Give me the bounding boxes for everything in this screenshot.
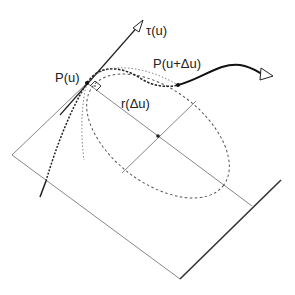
curve-segment-dashed bbox=[87, 69, 178, 86]
ellipse-center-point bbox=[156, 134, 160, 138]
curve-lower-solid bbox=[40, 181, 46, 197]
curve-alt-dotted bbox=[82, 83, 87, 160]
radius-label: r(Δu) bbox=[121, 96, 150, 111]
point-p-label: P(u) bbox=[55, 70, 80, 85]
geometry-diagram: τ(u) P(u) P(u+Δu) r(Δu) bbox=[0, 0, 295, 295]
normal-plane bbox=[12, 83, 281, 279]
tangent-label: τ(u) bbox=[146, 23, 167, 38]
curve-arrowhead bbox=[260, 68, 273, 80]
point-p bbox=[85, 81, 89, 85]
point-p-next-label: P(u+Δu) bbox=[153, 56, 201, 71]
point-p-next bbox=[176, 83, 180, 87]
curve-lower-dashed bbox=[46, 83, 87, 181]
